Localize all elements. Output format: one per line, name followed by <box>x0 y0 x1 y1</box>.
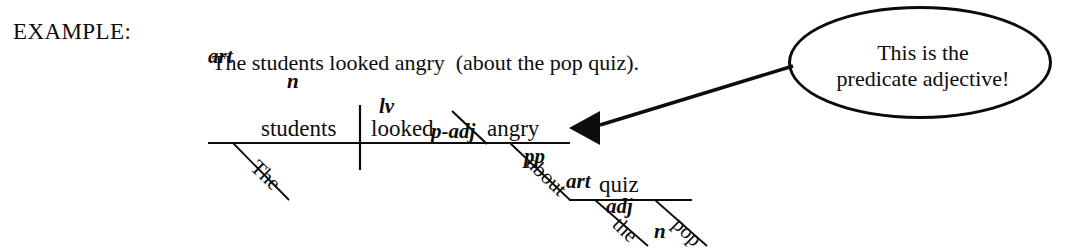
diagram-word-looked: looked <box>371 116 434 142</box>
diagram-word-quiz: quiz <box>599 172 639 198</box>
callout-arrow-shaft <box>600 66 793 125</box>
predicate-adjective-slash <box>452 111 487 144</box>
diagram-word-students: students <box>261 116 336 142</box>
callout-arrowhead <box>569 111 600 145</box>
diagram-word-angry: angry <box>487 116 539 142</box>
